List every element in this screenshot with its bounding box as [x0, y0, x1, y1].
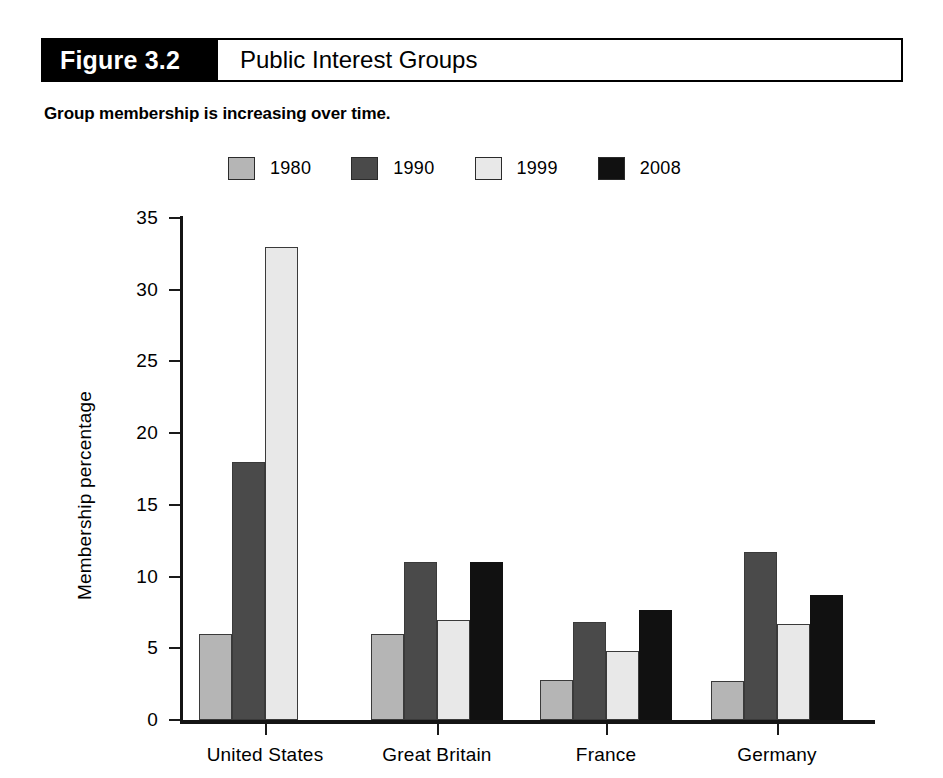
bar-great-britain-1980: [371, 634, 404, 720]
y-axis-title-label: Membership percentage: [74, 391, 96, 600]
x-axis-tick-mark: [265, 724, 267, 735]
chart-plot-area: Membership percentage 05101520253035Unit…: [0, 0, 943, 778]
x-axis-tick-mark: [606, 724, 608, 735]
bar-germany-1980: [711, 681, 744, 720]
y-axis-tick-mark: [169, 576, 180, 578]
x-axis-tick-mark: [437, 724, 439, 735]
bar-united-states-1999: [265, 247, 298, 720]
y-axis-tick-label: 25: [118, 350, 158, 372]
bar-great-britain-1999: [437, 620, 470, 720]
y-axis-tick-label: 10: [118, 566, 158, 588]
bar-germany-2008: [810, 595, 843, 720]
y-axis-tick-mark: [169, 432, 180, 434]
y-axis-tick-mark: [169, 217, 180, 219]
y-axis-tick-label: 5: [118, 637, 158, 659]
y-axis-tick-mark: [169, 360, 180, 362]
y-axis-tick-mark: [169, 289, 180, 291]
bar-germany-1999: [777, 624, 810, 720]
x-axis-group-label: United States: [207, 744, 324, 766]
x-axis-line: [180, 720, 875, 724]
bar-france-1980: [540, 680, 573, 720]
y-axis-tick-label: 35: [118, 207, 158, 229]
x-axis-group-label: France: [576, 744, 636, 766]
bar-germany-1990: [744, 552, 777, 720]
bar-great-britain-2008: [470, 562, 503, 720]
y-axis-tick-mark: [169, 647, 180, 649]
bar-great-britain-1990: [404, 562, 437, 720]
y-axis-tick-label: 20: [118, 422, 158, 444]
bar-united-states-1990: [232, 462, 265, 720]
x-axis-group-label: Great Britain: [382, 744, 491, 766]
bar-france-2008: [639, 610, 672, 720]
y-axis-line: [180, 216, 183, 722]
y-axis-tick-mark: [169, 719, 180, 721]
x-axis-tick-mark: [777, 724, 779, 735]
bar-france-1999: [606, 651, 639, 720]
y-axis-tick-label: 0: [118, 709, 158, 731]
bar-united-states-1980: [199, 634, 232, 720]
bar-france-1990: [573, 622, 606, 720]
y-axis-tick-mark: [169, 504, 180, 506]
y-axis-tick-label: 15: [118, 494, 158, 516]
y-axis-tick-label: 30: [118, 279, 158, 301]
x-axis-group-label: Germany: [737, 744, 817, 766]
y-axis-title: Membership percentage: [0, 0, 1, 1]
